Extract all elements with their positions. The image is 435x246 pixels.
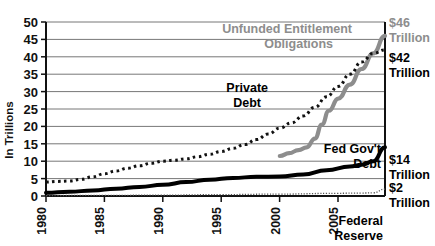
- series-line-private-debt: [46, 50, 385, 182]
- x-tick-label-1980: 1980: [35, 207, 49, 235]
- x-tick-label-2000: 2000: [269, 207, 283, 235]
- y-axis-title: In Trillions: [3, 101, 15, 159]
- chart-svg: 50 45 40 35 30 25 20 15 10 5 0 In Trilli…: [0, 0, 435, 246]
- chart-container: 50 45 40 35 30 25 20 15 10 5 0 In Trilli…: [0, 0, 435, 246]
- annotation-fedgov-line1: Fed Gov't: [324, 142, 382, 156]
- annotation-private-line1: Private: [226, 81, 268, 95]
- annotation-private-line2: Debt: [233, 96, 262, 110]
- y-tick-label-15: 15: [24, 137, 38, 152]
- annotation-unfunded-line2: Obligations: [264, 37, 333, 51]
- y-tick-label-35: 35: [24, 67, 38, 82]
- side-label-2t-line2: Trillion: [389, 196, 430, 210]
- y-tick-label-0: 0: [31, 189, 38, 204]
- annotation-unfunded-line1: Unfunded Entitlement: [222, 22, 353, 36]
- annotation-fedgov-line2: Debt: [353, 157, 382, 171]
- y-tick-label-45: 45: [24, 32, 38, 47]
- y-tick-label-50: 50: [24, 15, 38, 30]
- data-series-layer: [46, 36, 385, 196]
- y-tick-label-20: 20: [24, 119, 38, 134]
- side-label-46t-line1: $46: [389, 16, 410, 30]
- y-tick-label-40: 40: [24, 50, 38, 65]
- y-tick-label-5: 5: [31, 172, 38, 187]
- x-tick-label-1990: 1990: [152, 207, 166, 235]
- y-tick-label-25: 25: [24, 102, 38, 117]
- source-label-line2: Reserve: [334, 229, 383, 243]
- x-tick-label-1995: 1995: [210, 207, 224, 235]
- y-tick-label-10: 10: [24, 154, 38, 169]
- side-label-46t-line2: Trillion: [389, 31, 430, 45]
- side-label-2t-line1: $2: [389, 181, 403, 195]
- y-tick-label-30: 30: [24, 85, 38, 100]
- side-label-42t-line1: $42: [389, 51, 410, 65]
- side-label-14t-line2: Trillion: [389, 168, 430, 182]
- side-label-14t-line1: $14: [389, 153, 410, 167]
- x-tick-label-1985: 1985: [93, 207, 107, 235]
- side-label-42t-line2: Trillion: [389, 66, 430, 80]
- source-label-line1: Federal: [339, 214, 383, 228]
- series-line-unfunded-entitlement-obligations: [280, 36, 385, 156]
